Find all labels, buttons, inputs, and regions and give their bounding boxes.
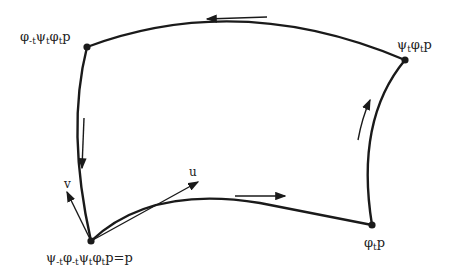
label-top-right: ψtφtp xyxy=(397,38,432,54)
vertex-top-right xyxy=(401,56,408,63)
label-vector-v: v xyxy=(64,178,71,190)
label-bottom-left: ψ-tφ-tψtφtp=p xyxy=(46,251,133,267)
vertex-top-left xyxy=(83,43,90,50)
vector-v-icon xyxy=(67,192,91,241)
vertex-bottom-left xyxy=(87,237,94,244)
arrow-right-up-icon xyxy=(358,100,370,140)
label-top-left: φ-tψtφtp xyxy=(20,30,71,46)
diagram-canvas: φ-tψtφtp ψtφtp φtp ψ-tφ-tψtφtp=p u v xyxy=(0,0,464,277)
top-edge xyxy=(87,21,405,60)
arrow-top-left-icon xyxy=(207,17,267,19)
arrow-left-down-icon xyxy=(82,118,84,168)
vector-u-icon xyxy=(91,182,198,241)
vertex-bottom-right xyxy=(368,221,375,228)
label-bottom-right: φtp xyxy=(364,236,385,252)
left-edge xyxy=(77,47,91,241)
right-edge xyxy=(368,60,405,225)
label-vector-u: u xyxy=(189,166,197,178)
bottom-edge xyxy=(91,199,372,241)
